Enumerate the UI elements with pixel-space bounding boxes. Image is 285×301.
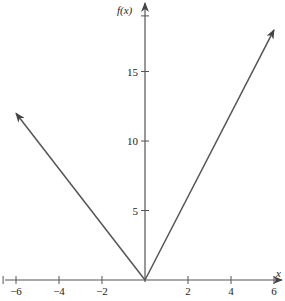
y-axis-label: f(x) [117, 4, 133, 17]
x-tick-label: −2 [96, 285, 108, 297]
x-tick-label: 2 [185, 285, 191, 297]
function-line-right [145, 30, 274, 280]
y-tick-label: 5 [133, 205, 139, 217]
x-tick-label: 4 [228, 285, 234, 297]
y-tick-label: 15 [127, 66, 139, 78]
piecewise-linear-chart: xf(x)−6−4−224651015 [0, 0, 285, 301]
y-tick-label: 10 [127, 135, 139, 147]
x-axis-label: x [275, 267, 281, 279]
x-tick-label: 6 [271, 285, 277, 297]
x-tick-label: −6 [10, 285, 22, 297]
x-tick-label: −4 [53, 285, 65, 297]
function-line-left [16, 113, 145, 280]
